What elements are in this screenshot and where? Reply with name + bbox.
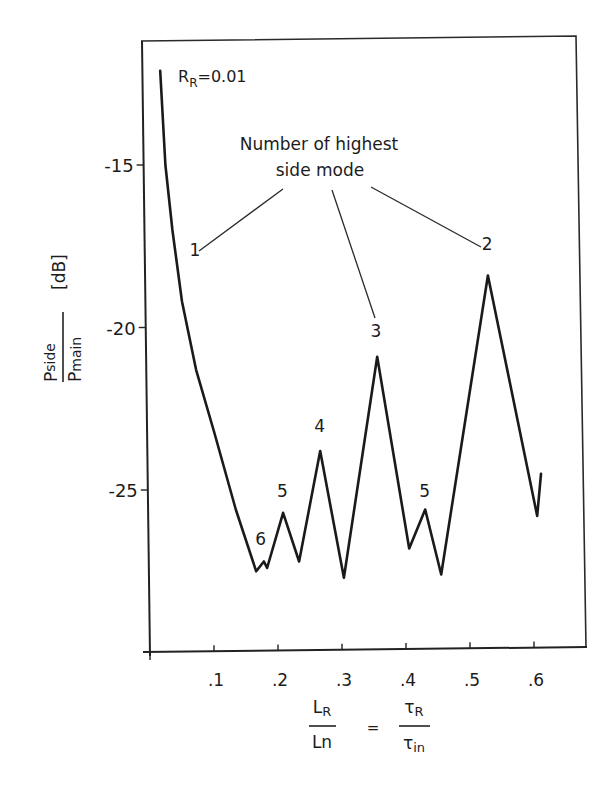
y-axis-label: Pside Pmain [dB]: [41, 254, 85, 382]
y-tick-label: -15: [104, 155, 133, 176]
x-tick-label: .4: [400, 670, 416, 690]
x-tick-label: .6: [528, 670, 544, 690]
side-mode-chart: -15-20-25 .1.2.3.4.5.6 RR=0.01 Number of…: [0, 0, 612, 793]
x-tick-label: .5: [464, 670, 480, 690]
y-tick-label: -25: [108, 480, 137, 501]
mode-number-label: 4: [314, 416, 325, 436]
annotation-heading-line2: side mode: [276, 160, 364, 180]
svg-text:Pside: Pside: [41, 343, 61, 382]
mode-number-label: 5: [419, 481, 430, 501]
y-axis-line: [142, 41, 150, 656]
mode-number-label: 6: [255, 529, 266, 549]
parameter-label: RR=0.01: [178, 67, 247, 90]
mode-number-label: 2: [482, 234, 493, 254]
x-tick-label: .1: [208, 670, 224, 690]
x-axis-line: [143, 647, 587, 652]
y-tick-label: -20: [106, 318, 135, 339]
svg-text:τin: τin: [403, 733, 425, 755]
x-tick-label: .3: [336, 670, 352, 690]
x-axis-label: LR Ln = τR τin: [309, 697, 430, 755]
svg-text:Ln: Ln: [312, 732, 332, 752]
x-tick-label: .2: [272, 670, 288, 690]
svg-text:τR: τR: [404, 697, 423, 719]
y-ticks: -15-20-25: [104, 155, 148, 501]
leader-line-mode-1: [199, 189, 283, 251]
svg-text:[dB]: [dB]: [49, 254, 69, 290]
mode-number-label: 3: [371, 321, 382, 341]
svg-text:=: =: [367, 719, 380, 737]
plot-frame: [141, 36, 586, 647]
leader-line-mode-2: [371, 187, 481, 247]
mode-number-label: 5: [277, 481, 288, 501]
annotation-heading-line1: Number of highest: [240, 134, 399, 154]
mode-number-label: 1: [189, 240, 200, 260]
leader-line-mode-3: [332, 190, 375, 318]
svg-text:Pmain: Pmain: [65, 337, 85, 382]
svg-text:LR: LR: [313, 697, 332, 719]
